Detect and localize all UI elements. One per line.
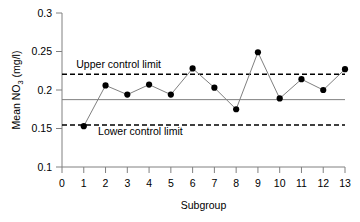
- x-axis-title: Subgroup: [181, 199, 227, 211]
- data-point-6: [190, 65, 196, 71]
- x-tick-label-9: 9: [255, 177, 261, 189]
- x-tick-label-2: 2: [103, 177, 109, 189]
- lower-control-limit-label: Lower control limit: [98, 125, 183, 137]
- data-point-1: [81, 123, 87, 129]
- x-tick-label-13: 13: [339, 177, 351, 189]
- x-tick-label-10: 10: [274, 177, 286, 189]
- data-point-2: [102, 82, 108, 88]
- x-tick-label-11: 11: [296, 177, 307, 189]
- x-tick-label-6: 6: [190, 177, 196, 189]
- y-tick-label-3: 0.25: [32, 45, 53, 57]
- chart-canvas: 0.10.150.20.250.3 012345678910111213 Upp…: [0, 0, 360, 222]
- y-tick-label-2: 0.2: [37, 84, 52, 96]
- y-tick-label-1: 0.15: [32, 122, 53, 134]
- y-axis-title-pre: Mean NO: [10, 84, 22, 129]
- x-tick-label-3: 3: [124, 177, 130, 189]
- data-point-7: [211, 85, 217, 91]
- y-tick-label-0: 0.1: [37, 161, 52, 173]
- x-tick-label-12: 12: [317, 177, 329, 189]
- data-point-3: [124, 92, 130, 98]
- data-point-10: [277, 95, 283, 101]
- x-tick-label-4: 4: [146, 177, 152, 189]
- control-chart: 0.10.150.20.250.3 012345678910111213 Upp…: [0, 0, 360, 222]
- data-point-12: [320, 87, 326, 93]
- data-point-13: [342, 66, 348, 72]
- data-point-11: [298, 76, 304, 82]
- x-tick-label-0: 0: [59, 177, 65, 189]
- data-point-5: [168, 92, 174, 98]
- x-tick-label-1: 1: [81, 177, 87, 189]
- data-point-9: [255, 49, 261, 55]
- data-point-4: [146, 82, 152, 88]
- x-tick-label-7: 7: [211, 177, 217, 189]
- upper-control-limit-label: Upper control limit: [76, 58, 161, 70]
- x-tick-label-8: 8: [233, 177, 239, 189]
- y-tick-label-4: 0.3: [37, 7, 52, 19]
- data-point-8: [233, 106, 239, 112]
- y-axis-title-post: (mg/l): [10, 51, 22, 81]
- x-tick-label-5: 5: [168, 177, 174, 189]
